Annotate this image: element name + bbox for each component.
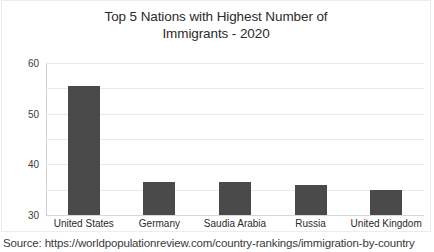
y-axis-tick-label: 50 bbox=[28, 108, 39, 119]
plot-area: 0102030405060 bbox=[46, 63, 424, 215]
gridline-0: 0 bbox=[46, 215, 424, 216]
bar bbox=[143, 182, 175, 215]
y-axis-tick-label: 40 bbox=[28, 159, 39, 170]
x-axis-category-label: Russia bbox=[295, 218, 326, 229]
bar-slot bbox=[46, 63, 122, 215]
source-caption: Source: https://worldpopulationreview.co… bbox=[3, 237, 434, 249]
x-axis-category-label: Germany bbox=[139, 218, 180, 229]
bar bbox=[219, 182, 251, 215]
chart-screenshot: Top 5 Nations with Highest Number of Imm… bbox=[0, 0, 434, 252]
x-axis-category-labels: United StatesGermanySaudia ArabiaRussiaU… bbox=[46, 218, 424, 232]
bar bbox=[68, 86, 100, 215]
y-axis-tick-label: 30 bbox=[28, 210, 39, 221]
y-axis-tick-label: 60 bbox=[28, 58, 39, 69]
bar-slot bbox=[122, 63, 198, 215]
x-axis-category-label: United States bbox=[54, 218, 114, 229]
x-axis-category-label: United Kingdom bbox=[351, 218, 422, 229]
bars-group bbox=[46, 63, 424, 215]
bar-slot bbox=[273, 63, 349, 215]
chart-title-line-1: Top 5 Nations with Highest Number of bbox=[2, 8, 430, 25]
bar bbox=[370, 190, 402, 215]
chart-title: Top 5 Nations with Highest Number of Imm… bbox=[2, 8, 430, 42]
bar-slot bbox=[348, 63, 424, 215]
chart-title-line-2: Immigrants - 2020 bbox=[2, 25, 430, 42]
chart-container: Top 5 Nations with Highest Number of Imm… bbox=[1, 0, 431, 232]
bar-slot bbox=[197, 63, 273, 215]
x-axis-category-label: Saudia Arabia bbox=[204, 218, 266, 229]
bar bbox=[295, 185, 327, 215]
